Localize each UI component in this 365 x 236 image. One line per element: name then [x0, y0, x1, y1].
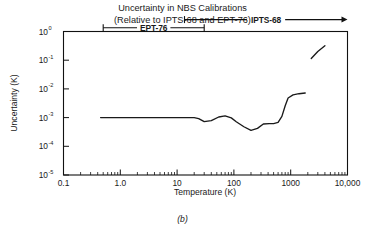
y-tick-label-mantissa: 10	[39, 141, 49, 151]
chart-title-line-1: Uncertainty in NBS Calibrations	[118, 3, 247, 13]
x-axis-ticks	[64, 170, 348, 176]
plot-frame	[64, 32, 348, 176]
x-tick-label: 1000	[281, 178, 300, 188]
x-tick-label: 1.0	[114, 178, 126, 188]
y-tick-label-exponent: -5	[49, 169, 54, 175]
data-curve-1	[311, 46, 325, 59]
y-tick-label-exponent: -1	[49, 54, 54, 60]
y-tick-label-mantissa: 10	[39, 113, 49, 123]
range-bar-label: IPTS-68	[251, 15, 281, 25]
y-tick-label-exponent: -4	[49, 140, 54, 146]
arrowhead-icon	[342, 17, 348, 23]
y-tick-label-mantissa: 10	[39, 170, 49, 180]
y-tick-label-exponent: 0	[49, 25, 52, 31]
y-axis-tick-labels: 10-510-410-310-210-1100	[39, 25, 54, 180]
range-bar-label: EPT-76	[140, 23, 168, 33]
y-tick-label-mantissa: 10	[39, 27, 49, 37]
y-tick-label-exponent: -2	[49, 82, 54, 88]
data-series-group	[101, 46, 325, 131]
y-tick-label-mantissa: 10	[39, 84, 49, 94]
figure-container: Uncertainty in NBS Calibrations (Relativ…	[0, 0, 365, 236]
x-tick-label: 10,000	[335, 178, 361, 188]
y-tick-label-exponent: -3	[49, 111, 54, 117]
x-axis-label: Temperature (K)	[174, 187, 236, 197]
y-axis-label: Uncertainty (K)	[9, 74, 19, 131]
y-axis-ticks	[64, 32, 70, 176]
uncertainty-chart: Uncertainty in NBS Calibrations (Relativ…	[0, 0, 365, 236]
x-tick-label: 0.1	[58, 178, 70, 188]
data-curve-0	[101, 93, 306, 130]
figure-caption: (b)	[177, 214, 188, 224]
y-tick-label-mantissa: 10	[39, 55, 49, 65]
